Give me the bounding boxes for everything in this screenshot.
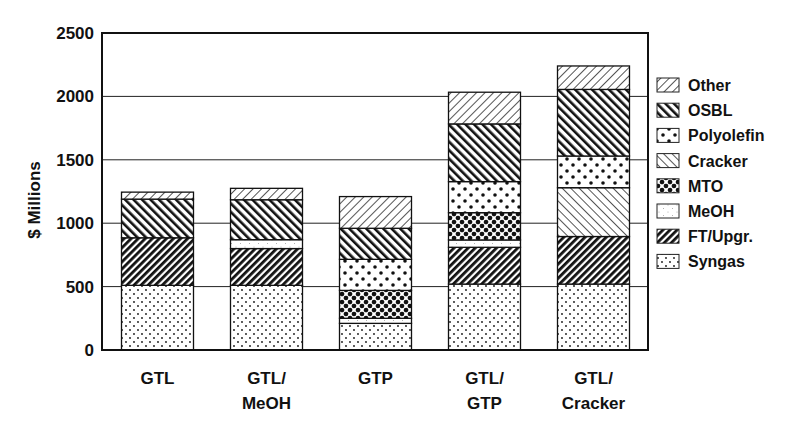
bar-segment-osbl — [231, 200, 303, 240]
svg-text:$ Millions: $ Millions — [25, 161, 44, 238]
y-axis-ticks: 05001000150020002500 — [56, 24, 94, 360]
bar-segment-polyolefin — [340, 259, 412, 290]
bar-segment-ft — [558, 237, 630, 285]
bar-segment-cracker — [558, 188, 630, 237]
bar-segment-syngas — [340, 323, 412, 350]
bar-segment-osbl — [558, 89, 630, 156]
legend-item: Syngas — [657, 253, 745, 270]
legend-label: Syngas — [688, 253, 745, 270]
bar-segment-ft — [231, 249, 303, 286]
legend: OtherOSBLPolyolefinCrackerMTOMeOHFT/Upgr… — [657, 77, 764, 270]
bar-segment-meoh — [340, 318, 412, 323]
x-axis-labels: GTLGTL/MeOHGTPGTL/GTPGTL/Cracker — [141, 369, 626, 413]
bar-segment-polyolefin — [558, 156, 630, 188]
legend-label: Cracker — [688, 153, 748, 170]
legend-item: Other — [657, 77, 731, 94]
bar-segment-osbl — [122, 199, 194, 238]
bar-segment-meoh — [231, 240, 303, 249]
x-category-label: GTP — [467, 394, 502, 413]
legend-item: MeOH — [657, 203, 734, 220]
bar-stack — [340, 197, 412, 350]
y-tick-label: 0 — [85, 341, 94, 360]
bar-segment-polyolefin — [449, 182, 521, 213]
legend-swatch-meoh — [657, 204, 679, 218]
bar-segment-syngas — [558, 284, 630, 350]
legend-swatch-polyolefin — [657, 128, 679, 142]
bar-segment-other — [231, 188, 303, 199]
legend-swatch-ft — [657, 229, 679, 243]
legend-swatch-syngas — [657, 254, 679, 268]
bar-stack — [122, 192, 194, 350]
legend-swatch-cracker — [657, 154, 679, 168]
legend-swatch-osbl — [657, 103, 679, 117]
bar-segment-ft — [122, 238, 194, 286]
legend-label: Polyolefin — [688, 127, 764, 144]
legend-label: OSBL — [688, 102, 733, 119]
bar-segment-syngas — [231, 285, 303, 350]
legend-item: MTO — [657, 178, 723, 195]
x-category-label: GTL/ — [574, 369, 613, 388]
y-tick-label: 1000 — [56, 214, 94, 233]
legend-label: Other — [688, 77, 731, 94]
x-category-label: GTL — [141, 369, 175, 388]
bar-segment-other — [558, 66, 630, 89]
bar-stack — [558, 66, 630, 350]
legend-label: MTO — [688, 178, 723, 195]
bar-segment-meoh — [449, 240, 521, 247]
bar-segment-syngas — [122, 285, 194, 350]
bar-segment-osbl — [449, 124, 521, 182]
legend-swatch-mto — [657, 179, 679, 193]
bar-stack — [449, 92, 521, 350]
legend-label: MeOH — [688, 203, 734, 220]
y-axis-title: $ Millions — [25, 161, 44, 238]
x-category-label: MeOH — [242, 394, 291, 413]
stacked-bar-chart: $ Millions 05001000150020002500 GTLGTL/M… — [0, 0, 807, 425]
legend-label: FT/Upgr. — [688, 228, 753, 245]
bar-segment-osbl — [340, 228, 412, 259]
legend-swatch-other — [657, 78, 679, 92]
bars — [122, 66, 630, 350]
legend-item: OSBL — [657, 102, 733, 119]
y-tick-label: 1500 — [56, 151, 94, 170]
y-tick-label: 500 — [66, 278, 94, 297]
y-tick-label: 2000 — [56, 87, 94, 106]
bar-segment-other — [122, 192, 194, 199]
bar-segment-other — [449, 92, 521, 124]
y-tick-label: 2500 — [56, 24, 94, 43]
x-category-label: Cracker — [562, 394, 626, 413]
bar-segment-ft — [449, 247, 521, 284]
x-category-label: GTP — [358, 369, 393, 388]
x-category-label: GTL/ — [247, 369, 286, 388]
legend-item: Cracker — [657, 153, 748, 170]
bar-segment-mto — [449, 213, 521, 240]
bar-stack — [231, 188, 303, 350]
x-category-label: GTL/ — [465, 369, 504, 388]
bar-segment-other — [340, 197, 412, 229]
bar-segment-syngas — [449, 284, 521, 350]
bar-segment-mto — [340, 290, 412, 318]
legend-item: FT/Upgr. — [657, 228, 753, 245]
legend-item: Polyolefin — [657, 127, 764, 144]
